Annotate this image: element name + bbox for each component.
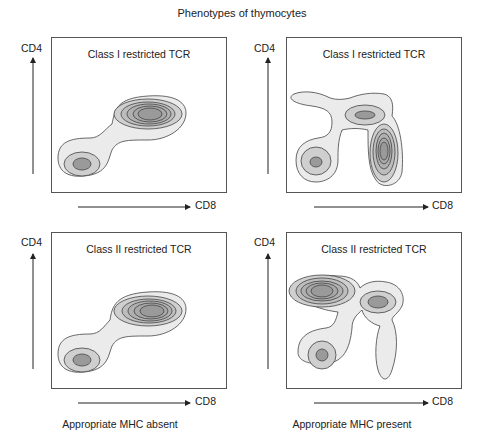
panel-class2-mhc-absent: CD4 CD8 Class II restricted TCR Appropri…	[0, 224, 240, 448]
panel-class2-mhc-present: CD4 CD8 Class II restricted TCR Appropri…	[242, 224, 482, 448]
contour-plot	[0, 0, 240, 224]
contour-plot	[242, 224, 482, 448]
contour-plot	[242, 0, 482, 224]
panel-class1-mhc-absent: CD4 CD8 Class I restricted TCR	[0, 0, 240, 224]
contour-plot	[0, 224, 240, 448]
panel-class1-mhc-present: CD4 CD8 Class I restricted TCR	[242, 0, 482, 224]
